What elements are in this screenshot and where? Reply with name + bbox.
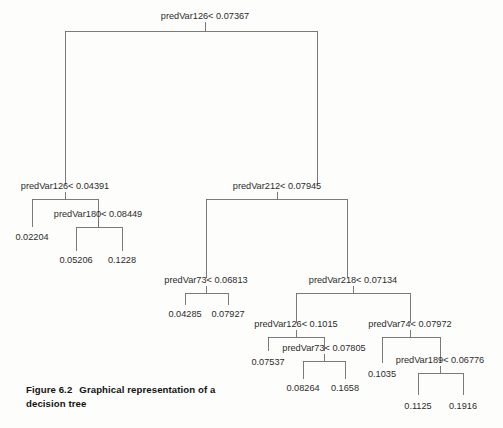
tree-leaf-label: 0.1916 [449,401,477,411]
tree-split-label: predVar126< 0.07367 [161,11,249,21]
figure-caption-number: Figure 6.2 [26,384,72,395]
tree-leaf-label: 0.1035 [368,369,396,379]
tree-split-label: predVar73< 0.06813 [164,275,247,285]
tree-split-label: predVar212< 0.07945 [233,181,321,191]
decision-tree-diagram: predVar126< 0.07367predVar126< 0.04391pr… [0,0,503,428]
tree-split-label: predVar180< 0.08449 [54,209,142,219]
figure-caption: Figure 6.2Graphical representation of a … [26,383,256,411]
tree-leaf-label: 0.02204 [15,232,48,242]
tree-leaf-label: 0.07927 [211,309,244,319]
tree-leaf-label: 0.1125 [404,401,431,411]
tree-leaf-label: 0.08264 [286,383,319,393]
tree-split-label: predVar218< 0.07134 [309,275,397,285]
tree-leaf-label: 0.1658 [331,383,359,393]
tree-split-label: predVar73< 0.07805 [282,343,365,353]
tree-split-label: predVar189< 0.06776 [396,355,484,365]
tree-split-label: predVar74< 0.07972 [368,319,451,329]
tree-leaf-label: 0.07537 [251,357,284,367]
tree-leaf-label: 0.1228 [108,255,136,265]
tree-leaf-label: 0.04285 [168,309,201,319]
tree-label-layer: predVar126< 0.07367predVar126< 0.04391pr… [15,11,484,411]
tree-split-label: predVar126< 0.04391 [21,181,109,191]
tree-leaf-label: 0.05206 [59,255,92,265]
tree-split-label: predVar126< 0.1015 [254,319,337,329]
figure-container: predVar126< 0.07367predVar126< 0.04391pr… [0,0,503,428]
